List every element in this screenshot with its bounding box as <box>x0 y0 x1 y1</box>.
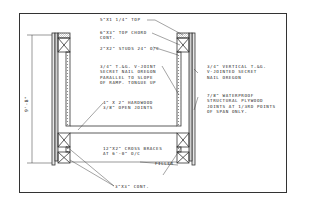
right-wall <box>177 33 195 165</box>
height-dimension: 9'-8" <box>24 96 29 112</box>
label-interior-sheathing: 3/4" T.&G. V-JOINT SECRET NAIL OREGON PA… <box>100 64 156 86</box>
label-filler: FILLER <box>155 161 174 166</box>
label-cross-braces: 12"x2" CROSS BRACES AT 6'-0" o/c <box>103 146 162 157</box>
label-exterior-sheathing: 3/4" VERTICAL T.&G. V-JOINTED SECRET NAI… <box>207 64 266 80</box>
label-top-rail: 5"x1 1/4" TOP <box>100 17 141 22</box>
label-bottom-chord: 3"x3" CONT. <box>115 184 149 189</box>
label-studs: 2"x2" STUDS 24" o/c <box>100 46 159 51</box>
left-wall <box>52 33 70 165</box>
label-plywood: 7/8" WATERPROOF STRUCTURAL PLYWOOD JOINT… <box>207 93 276 115</box>
label-hardwood-floor: 4" x 2" HARDWOOD 3/8" OPEN JOINTS <box>103 100 153 111</box>
label-top-chord: 6"x3" TOP CHORD CONT. <box>100 30 147 41</box>
